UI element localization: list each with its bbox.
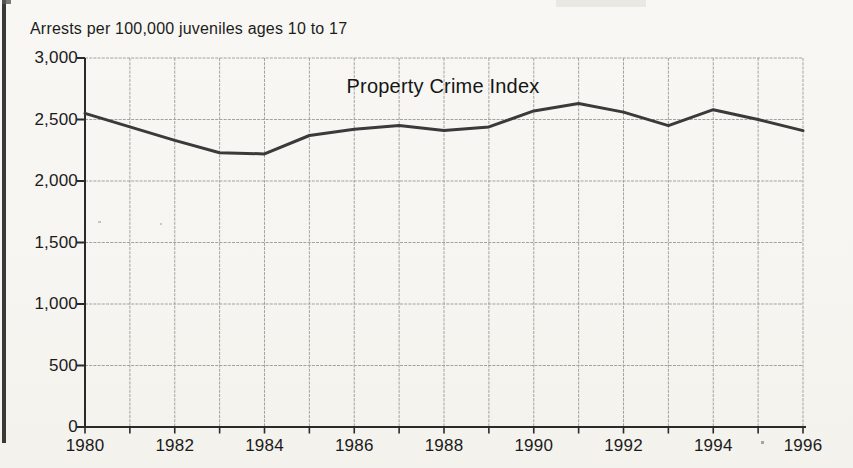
x-tick-label: 1992 (592, 436, 656, 456)
y-tick-label: 1,000 (0, 294, 78, 314)
x-tick-label: 1980 (53, 436, 117, 456)
x-tick-label: 1996 (771, 436, 835, 456)
y-tick-label: 500 (0, 356, 78, 376)
y-tick-label: 1,500 (0, 233, 78, 253)
x-tick-label: 1986 (322, 436, 386, 456)
y-tick-label: 0 (0, 417, 78, 437)
x-tick-label: 1994 (681, 436, 745, 456)
scanned-report-page: Arrests per 100,000 juveniles ages 10 to… (0, 0, 853, 468)
x-tick-label: 1990 (502, 436, 566, 456)
chart-canvas (0, 0, 853, 468)
x-tick-label: 1984 (233, 436, 297, 456)
y-tick-label: 3,000 (0, 48, 78, 68)
x-tick-label: 1982 (143, 436, 207, 456)
x-tick-label: 1988 (412, 436, 476, 456)
chart-title: Property Crime Index (347, 75, 540, 98)
y-tick-label: 2,000 (0, 171, 78, 191)
y-tick-label: 2,500 (0, 110, 78, 130)
